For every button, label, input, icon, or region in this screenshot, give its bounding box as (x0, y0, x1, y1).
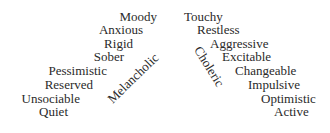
trait-excitable: Excitable (222, 50, 271, 63)
trait-active: Active (274, 105, 309, 118)
trait-quiet: Quiet (39, 105, 68, 118)
trait-anxious: Anxious (99, 23, 143, 36)
trait-pessimistic: Pessimistic (48, 64, 107, 77)
trait-reserved: Reserved (45, 78, 93, 91)
trait-restless: Restless (197, 23, 240, 36)
trait-sober: Sober (94, 50, 124, 63)
trait-impulsive: Impulsive (248, 78, 300, 91)
trait-changeable: Changeable (235, 64, 296, 77)
